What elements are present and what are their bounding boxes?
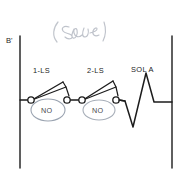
switch-1-no-label: NO	[41, 106, 52, 115]
switch-2-pivot-terminal	[79, 97, 85, 103]
switch-1-ls[interactable]: 1-LS NO	[28, 66, 70, 121]
switch-2-label: 2-LS	[87, 66, 104, 75]
ladder-diagram: ( serie B' 1-LS NO	[0, 0, 190, 181]
handwritten-annotation: ( serie	[54, 22, 107, 45]
switch-2-fixed-terminal	[113, 97, 119, 103]
solenoid-a[interactable]: SOL A	[119, 65, 172, 127]
left-rail-label: B'	[6, 36, 13, 45]
switch-2-ls[interactable]: 2-LS NO	[79, 66, 119, 120]
diagram-canvas: ( serie B' 1-LS NO	[0, 0, 190, 181]
switch-1-fixed-terminal	[64, 97, 70, 103]
switch-2-no-label: NO	[92, 106, 103, 115]
switch-1-label: 1-LS	[33, 66, 50, 75]
switch-2-contact-lead	[116, 87, 118, 96]
solenoid-coil-zigzag	[119, 73, 172, 127]
switch-1-contact-lead	[66, 87, 69, 96]
switch-1-blade	[32, 82, 63, 100]
annotation-paren-icon	[54, 22, 58, 42]
solenoid-label: SOL A	[131, 65, 154, 74]
switch-1-pivot-terminal	[28, 97, 34, 103]
